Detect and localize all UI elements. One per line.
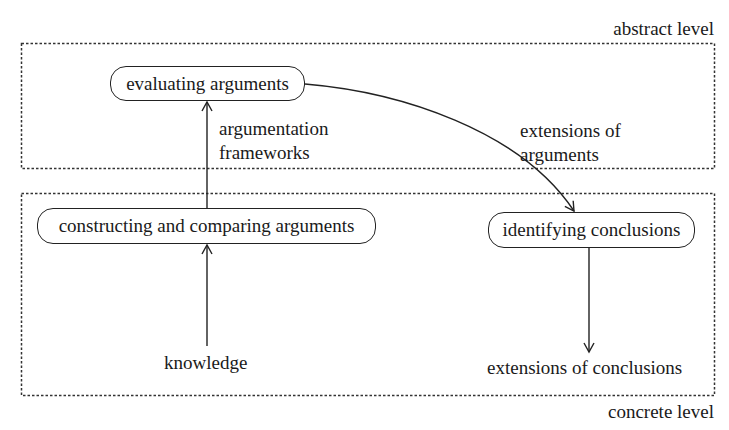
node-evaluating-arguments: evaluating arguments — [110, 66, 305, 101]
label-extensions-of-conclusions: extensions of conclusions — [487, 357, 682, 379]
label-arguments: arguments — [520, 144, 599, 166]
node-identifying-conclusions: identifying conclusions — [488, 212, 695, 248]
concrete-level-label: concrete level — [608, 401, 714, 423]
label-extensions-of: extensions of — [520, 120, 621, 142]
label-argumentation: argumentation — [219, 118, 328, 140]
node-constructing-comparing-arguments: constructing and comparing arguments — [37, 208, 376, 244]
label-frameworks: frameworks — [219, 142, 310, 164]
abstract-level-label: abstract level — [613, 18, 714, 40]
label-knowledge: knowledge — [164, 352, 247, 374]
abstract-level-region — [22, 44, 715, 169]
